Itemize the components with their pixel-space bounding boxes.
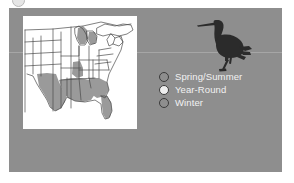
heron-silhouette-icon xyxy=(195,17,257,73)
legend-swatch-year-round xyxy=(159,85,169,95)
united-states-range-map xyxy=(23,16,137,129)
cropped-edge-mark xyxy=(12,0,25,7)
legend-label-year-round: Year-Round xyxy=(175,83,226,96)
legend-swatch-winter xyxy=(159,98,169,108)
legend-item-year-round[interactable]: Year-Round xyxy=(159,83,279,96)
legend-label-spring-summer: Spring/Summer xyxy=(175,70,242,83)
legend-label-winter: Winter xyxy=(175,96,203,109)
legend-swatch-spring-summer xyxy=(159,72,169,82)
legend-item-spring-summer[interactable]: Spring/Summer xyxy=(159,70,279,83)
range-map-panel: Spring/Summer Year-Round Winter xyxy=(9,8,282,172)
legend-item-winter[interactable]: Winter xyxy=(159,96,279,109)
figure-root: Spring/Summer Year-Round Winter xyxy=(0,0,294,183)
range-legend: Spring/Summer Year-Round Winter xyxy=(159,70,279,109)
